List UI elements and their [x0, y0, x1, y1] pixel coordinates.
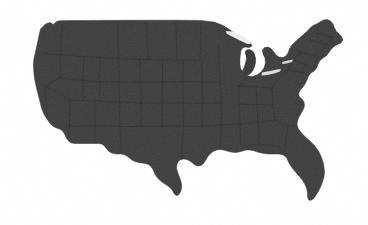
us-map-svg: [0, 0, 368, 225]
paper-grain-overlay: [0, 0, 368, 225]
us-map-figure: [0, 0, 368, 225]
